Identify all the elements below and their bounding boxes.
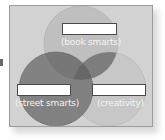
creativity-caption: (creativity) [97, 98, 144, 108]
street-smarts-caption: (street smarts) [15, 98, 79, 108]
left-edge-mark [0, 59, 3, 66]
book-smarts-label-box[interactable] [62, 23, 117, 35]
street-smarts-label-box[interactable] [17, 84, 71, 96]
venn-diagram-panel: (book smarts) (street smarts) (creativit… [9, 5, 153, 127]
creativity-label-box[interactable] [92, 84, 146, 96]
book-smarts-caption: (book smarts) [61, 37, 121, 47]
